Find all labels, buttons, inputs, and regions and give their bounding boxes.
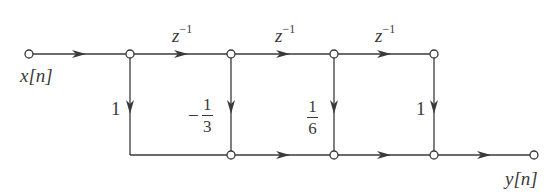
gain-label-1: 1 (111, 99, 121, 118)
delay-label-2: z−1 (275, 26, 295, 45)
gain-fraction: 1 3 (202, 96, 213, 135)
output-label: y[n] (505, 169, 538, 188)
fraction-bar (307, 117, 318, 118)
denominator: 3 (203, 118, 212, 135)
denominator: 6 (308, 120, 317, 137)
gain-fraction: 1 6 (307, 98, 318, 137)
delay-label-3: z−1 (375, 26, 395, 45)
node (126, 50, 134, 58)
gain-label-4: 1 (416, 99, 426, 118)
output-node (530, 151, 538, 159)
numerator: 1 (308, 98, 317, 115)
gain-sign: − (188, 106, 199, 125)
node (227, 151, 235, 159)
node (330, 50, 338, 58)
node (330, 151, 338, 159)
node (430, 50, 438, 58)
delay-label-1: z−1 (172, 26, 192, 45)
gain-label-2: − 1 3 (188, 96, 213, 135)
numerator: 1 (203, 96, 212, 113)
node (227, 50, 235, 58)
input-node (25, 50, 33, 58)
delay-exponent: −1 (179, 22, 192, 36)
node (430, 151, 438, 159)
gain-label-3: 1 6 (307, 96, 318, 137)
fraction-bar (202, 115, 213, 116)
delay-exponent: −1 (282, 22, 295, 36)
delay-exponent: −1 (382, 22, 395, 36)
input-label: x[n] (20, 66, 53, 85)
